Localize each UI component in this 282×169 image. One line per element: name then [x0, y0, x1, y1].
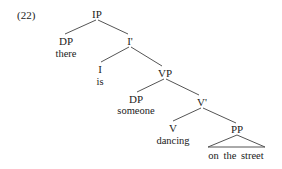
edge-vbar-v: [173, 108, 201, 121]
tree-edges: [0, 0, 282, 169]
node-pp: PP: [231, 123, 243, 135]
node-dp-there: DP: [59, 35, 73, 47]
word-there: there: [56, 48, 77, 60]
word-dancing: dancing: [156, 135, 189, 147]
edge-vp-dp: [137, 79, 164, 92]
node-i: I: [98, 63, 102, 75]
word-someone: someone: [117, 105, 154, 117]
node-vbar: V': [197, 96, 207, 108]
node-vp: VP: [158, 67, 172, 79]
edge-ibar-vp: [131, 47, 162, 66]
node-v: V: [169, 122, 177, 134]
edge-ibar-i: [101, 47, 129, 62]
edge-ip-dp: [65, 20, 96, 34]
node-ip: IP: [92, 8, 102, 20]
node-ibar: I': [127, 35, 133, 47]
edge-ip-ibar: [98, 20, 128, 34]
word-on-the-street: on the street: [208, 150, 263, 162]
node-dp-someone: DP: [129, 93, 143, 105]
word-is: is: [96, 76, 103, 88]
pp-triangle: [208, 135, 265, 147]
edge-vp-vbar: [166, 79, 199, 95]
edge-vbar-pp: [203, 108, 236, 123]
